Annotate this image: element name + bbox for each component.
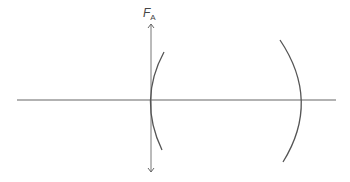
focal-label-subscript: A [150,13,156,22]
left-lens-surface [150,52,164,150]
focal-label: FA [143,6,156,22]
lens-diagram: FA [0,0,350,182]
right-lens-surface [280,40,301,162]
